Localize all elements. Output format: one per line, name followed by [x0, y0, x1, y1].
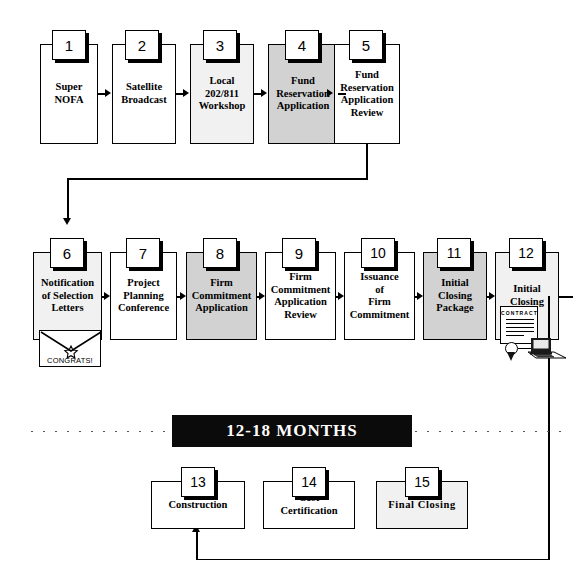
congrats-envelope-icon: CONGRATS!: [39, 330, 101, 367]
process-box-10-label: Issuance of Firm Commitment: [345, 271, 414, 321]
wrap2-connector-bottom: [196, 559, 549, 561]
arrow-1-to-2: [105, 89, 111, 97]
contract-rule: [506, 335, 524, 336]
envelope-caption: CONGRATS!: [40, 356, 100, 365]
process-box-13-number: 13: [181, 467, 215, 497]
process-box-4-number: 4: [285, 30, 319, 60]
arrow-3-to-4: [261, 89, 267, 97]
process-box-15-number: 15: [405, 467, 439, 497]
process-box-3-number: 3: [203, 30, 237, 60]
arrow-10-to-11: [417, 292, 423, 300]
process-box-8-number: 8: [203, 238, 237, 268]
wrap-connector-arrow: [63, 218, 71, 225]
arrow-7-to-8: [180, 292, 186, 300]
arrow-6-to-7: [104, 292, 110, 300]
timeline-dots-right: [410, 430, 570, 433]
wrap-connector-down-1: [366, 144, 368, 180]
process-box-2-number: 2: [125, 30, 159, 60]
arrow-11-to-12: [489, 292, 495, 300]
flowchart-canvas: Super NOFA 1 Satellite Broadcast 2 Local…: [0, 0, 587, 582]
process-box-13-label: Construction: [152, 499, 244, 512]
process-box-15-label: Final Closing: [377, 499, 467, 512]
contract-rule: [506, 323, 534, 324]
wrap2-connector-right: [559, 296, 573, 298]
process-box-6-label: Notification of Selection Letters: [34, 277, 101, 315]
timeline-dots-left: [26, 430, 176, 433]
process-box-12-number: 12: [509, 238, 543, 268]
arrow-8-to-9: [259, 292, 265, 300]
arrow-9-to-10: [338, 292, 344, 300]
contract-rule: [506, 319, 534, 320]
process-box-1-number: 1: [52, 30, 86, 60]
process-box-10-number: 10: [361, 238, 395, 268]
process-box-9-number: 9: [282, 238, 316, 268]
process-box-7-label: Project Planning Conference: [111, 277, 176, 315]
process-box-1-label: Super NOFA: [41, 81, 97, 106]
arrow-4-to-5: [327, 89, 333, 97]
process-box-14-number: 14: [292, 467, 326, 497]
process-box-11-number: 11: [437, 238, 471, 268]
process-box-3-label: Local 202/811 Workshop: [191, 75, 253, 113]
contract-rule: [506, 327, 534, 328]
process-box-5-number: 5: [349, 30, 383, 60]
arrow-2-to-3: [183, 89, 189, 97]
seal-ribbon-icon: [507, 352, 515, 361]
process-box-8-label: Firm Commitment Application: [187, 277, 256, 315]
process-box-11-label: Initial Closing Package: [424, 277, 486, 315]
process-box-9-label: Firm Commitment Application Review: [266, 271, 335, 321]
computer-desk-icon: [528, 336, 568, 362]
timeline-banner: 12-18 MONTHS: [172, 415, 412, 447]
wrap-connector-left: [67, 178, 367, 180]
process-box-7-number: 7: [126, 238, 160, 268]
wrap-connector-down-2: [67, 178, 69, 220]
contract-document-title: CONTRACT: [501, 310, 537, 316]
connector-4-to-5b: [338, 93, 346, 95]
wrap2-connector-up: [196, 530, 198, 559]
process-box-6-number: 6: [50, 238, 84, 268]
process-box-2-label: Satellite Broadcast: [113, 81, 175, 106]
contract-rule: [506, 331, 534, 332]
contract-seal-icon: CONTRACT: [498, 306, 560, 364]
